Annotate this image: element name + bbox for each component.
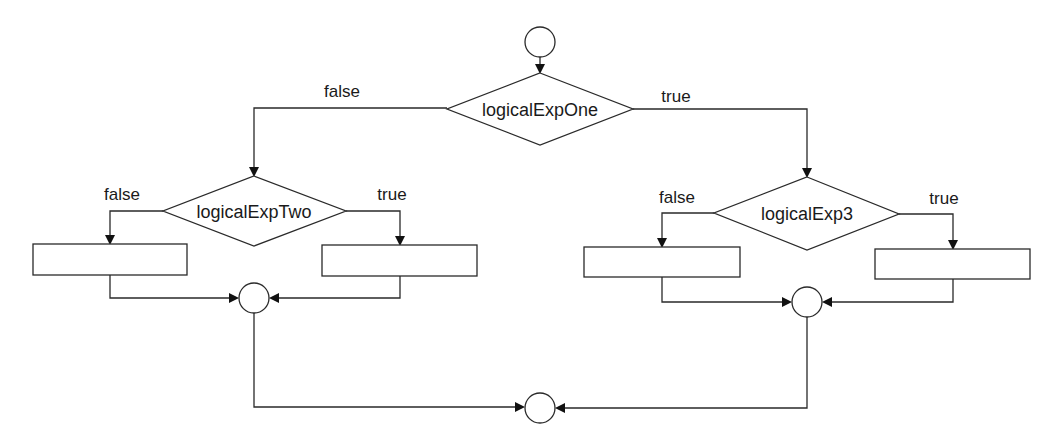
arrow-left-icon [269,293,279,303]
branch-label-false: false [324,82,360,101]
end-node-circle [525,393,555,423]
process-box-d2-true [322,245,477,276]
branch-label-true: true [661,87,690,106]
decision-logicalExpTwo: logicalExpTwo [163,176,346,246]
connector-d2-false [110,211,163,238]
connector-d3-true [899,214,953,243]
connector-right-junction-to-end [561,317,807,408]
connector-b2-to-junction [275,276,400,298]
process-box-d2-false [33,244,187,275]
junction-left-circle [239,283,269,313]
arrow-right-icon [229,293,239,303]
connector-b1-to-junction [110,275,233,298]
flowchart-canvas: logicalExpOne false true logicalExpTwo f… [0,0,1060,442]
junction-right-circle [792,287,822,317]
connector-b3-to-junction [662,277,786,302]
process-box-d3-false [584,247,740,277]
arrow-left-icon [822,297,832,307]
branch-label-true: true [929,189,958,208]
arrow-left-icon [555,403,565,413]
arrow-right-icon [782,297,792,307]
branch-label-false: false [104,185,140,204]
connector-d2-true [346,211,400,238]
process-box-d3-true [875,249,1030,279]
connector-d3-false [662,213,714,241]
connector-d1-true [633,109,807,171]
decision-logicalExpOne: logicalExpOne [447,73,633,145]
decision-label: logicalExp3 [761,204,853,224]
connector-d1-false [254,108,447,170]
connector-left-junction-to-end [254,313,519,407]
decision-logicalExp3: logicalExp3 [714,177,899,250]
branch-label-false: false [659,188,695,207]
connector-b4-to-junction [828,279,953,302]
branch-label-true: true [377,185,406,204]
decision-label: logicalExpTwo [196,202,311,222]
decision-label: logicalExpOne [482,100,598,120]
start-node-circle [525,27,555,57]
arrow-right-icon [515,402,525,412]
